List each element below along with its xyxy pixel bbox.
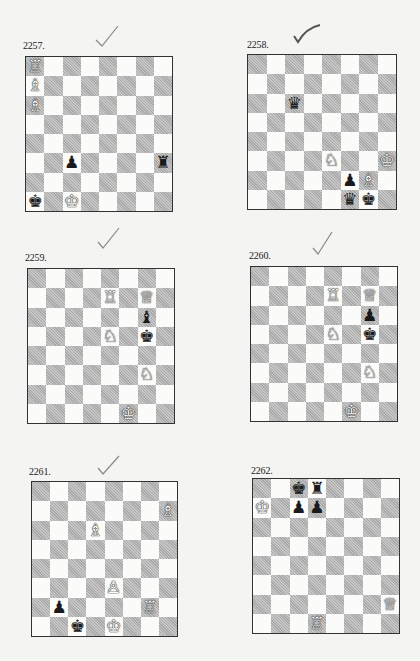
square-d8 — [304, 55, 323, 74]
square-d2 — [304, 171, 323, 190]
square-d1: ♖ — [308, 614, 326, 633]
chess-board: ♖♕♟♘♚♘♔ — [250, 266, 398, 422]
square-d1 — [306, 402, 324, 421]
white-king-icon: ♔ — [121, 405, 136, 422]
square-c4 — [285, 132, 304, 151]
square-h4 — [378, 132, 397, 151]
square-g4 — [359, 132, 378, 151]
square-c5 — [285, 113, 304, 132]
square-d2 — [306, 383, 324, 402]
square-e3: ♘ — [322, 151, 341, 170]
black-bishop-icon: ♝ — [139, 309, 154, 326]
square-f1: ♔ — [119, 404, 137, 423]
square-e4 — [324, 344, 342, 363]
square-a2 — [248, 171, 267, 190]
square-c4 — [68, 559, 86, 578]
black-king-icon: ♚ — [291, 480, 306, 497]
square-b5 — [267, 113, 286, 132]
square-g8 — [361, 267, 379, 286]
square-h1 — [378, 190, 397, 209]
square-g4 — [136, 134, 154, 153]
square-b1 — [267, 190, 286, 209]
square-a5 — [28, 327, 46, 346]
square-b7 — [269, 286, 287, 305]
square-e5: ♘ — [324, 325, 342, 344]
square-a7 — [28, 288, 46, 307]
square-c8: ♚ — [290, 479, 308, 498]
square-c3 — [288, 363, 306, 382]
square-c6 — [65, 308, 83, 327]
square-a3 — [32, 578, 50, 597]
square-f4 — [341, 132, 360, 151]
square-d6 — [306, 306, 324, 325]
square-d4 — [304, 132, 323, 151]
square-a2 — [32, 598, 50, 617]
square-h2 — [378, 171, 397, 190]
square-e8 — [322, 55, 341, 74]
square-g5 — [359, 113, 378, 132]
white-knight-icon: ♘ — [103, 328, 118, 345]
white-rook-icon: ♖ — [28, 58, 43, 75]
square-h7 — [156, 288, 174, 307]
square-g7 — [359, 74, 378, 93]
black-rook-icon: ♜ — [155, 154, 170, 171]
square-f5 — [341, 113, 360, 132]
square-c4 — [65, 346, 83, 365]
checkmark-icon — [95, 226, 125, 250]
square-g8 — [136, 57, 154, 76]
square-b3 — [46, 365, 64, 384]
white-bishop-icon: ♗ — [88, 522, 103, 539]
square-a8 — [253, 479, 271, 498]
white-queen-icon: ♕ — [382, 596, 397, 613]
square-d6 — [304, 94, 323, 113]
square-a6 — [28, 308, 46, 327]
square-d5 — [304, 113, 323, 132]
white-queen-icon: ♕ — [139, 289, 154, 306]
square-d6 — [308, 518, 326, 537]
square-e7 — [322, 74, 341, 93]
square-h6 — [154, 96, 172, 115]
square-c6 — [63, 96, 81, 115]
square-f5 — [342, 325, 360, 344]
square-b3 — [50, 578, 68, 597]
square-d6: ♗ — [86, 521, 104, 540]
white-king-icon: ♔ — [64, 193, 79, 210]
square-a3 — [248, 151, 267, 170]
square-b1 — [50, 617, 68, 636]
square-g4 — [361, 344, 379, 363]
square-f6 — [342, 306, 360, 325]
square-b2: ♟ — [50, 598, 68, 617]
square-a8 — [28, 269, 46, 288]
square-e6 — [101, 308, 119, 327]
square-c2 — [290, 595, 308, 614]
square-b8 — [46, 269, 64, 288]
square-h5 — [381, 537, 399, 556]
black-pawn-icon: ♟ — [362, 307, 377, 324]
square-h2 — [156, 385, 174, 404]
square-e4 — [105, 559, 123, 578]
square-e2 — [324, 383, 342, 402]
square-b3 — [269, 363, 287, 382]
checkmark-icon — [95, 452, 125, 476]
square-b1 — [44, 192, 62, 211]
square-e4 — [322, 132, 341, 151]
square-h7 — [154, 76, 172, 95]
square-a8: ♖ — [26, 57, 44, 76]
square-h1 — [154, 192, 172, 211]
square-f6 — [341, 94, 360, 113]
square-h5 — [159, 540, 177, 559]
square-e8 — [99, 57, 117, 76]
square-f5 — [123, 540, 141, 559]
square-a5 — [26, 115, 44, 134]
square-a6 — [248, 94, 267, 113]
square-b1 — [271, 614, 289, 633]
square-h3 — [381, 575, 399, 594]
square-c8 — [285, 55, 304, 74]
puzzle-number: 2262. — [251, 465, 273, 476]
square-a4 — [26, 134, 44, 153]
square-d1 — [81, 192, 99, 211]
black-rook-icon: ♜ — [309, 480, 324, 497]
square-e1 — [326, 614, 344, 633]
square-g1 — [138, 404, 156, 423]
square-h4 — [381, 556, 399, 575]
